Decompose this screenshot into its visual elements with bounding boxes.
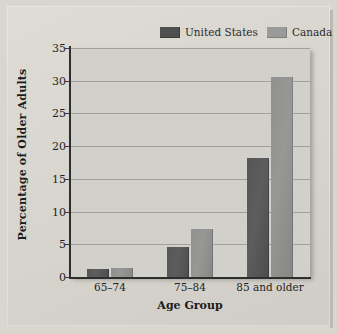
legend-item-canada[interactable]: Canada — [267, 26, 332, 38]
chart-figure: United States Canada 05101520253035 65–7… — [0, 0, 337, 334]
chart-legend: United States Canada — [160, 24, 310, 40]
bar-canada[interactable] — [111, 268, 133, 277]
bar-united-states[interactable] — [167, 247, 189, 277]
legend-swatch-united-states — [160, 27, 180, 38]
y-axis-tick-label: 0 — [20, 271, 66, 284]
bar-united-states[interactable] — [87, 269, 109, 277]
x-axis-line — [69, 277, 311, 279]
gridline — [70, 48, 310, 49]
plot-area — [70, 48, 310, 277]
y-axis-tick-mark — [65, 179, 70, 180]
y-axis-title: Percentage of Older Adults — [16, 55, 29, 255]
y-axis-tick-mark — [65, 113, 70, 114]
x-axis-title: Age Group — [70, 299, 310, 312]
bar-canada[interactable] — [271, 77, 293, 277]
legend-label-canada: Canada — [292, 26, 332, 38]
x-axis-category-label: 85 and older — [225, 281, 315, 293]
y-axis-tick-label: 35 — [20, 42, 66, 55]
legend-swatch-canada — [267, 27, 287, 38]
legend-item-united-states[interactable]: United States — [160, 26, 258, 38]
x-axis-category-label: 75–84 — [145, 281, 235, 293]
bar-canada[interactable] — [191, 229, 213, 277]
x-axis-category-label: 65–74 — [65, 281, 155, 293]
legend-label-united-states: United States — [185, 26, 258, 38]
y-axis-tick-mark — [65, 146, 70, 147]
y-axis-tick-mark — [65, 244, 70, 245]
y-axis-tick-mark — [65, 48, 70, 49]
y-axis-tick-mark — [65, 81, 70, 82]
bar-united-states[interactable] — [247, 158, 269, 277]
y-axis-tick-mark — [65, 212, 70, 213]
y-axis-tick-mark — [65, 277, 70, 278]
